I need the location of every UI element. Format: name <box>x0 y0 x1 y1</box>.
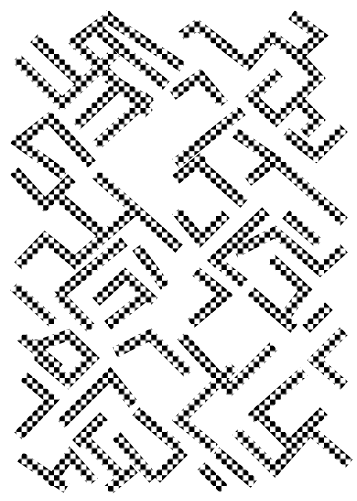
ornament-artwork <box>0 0 357 501</box>
pixel-bands <box>0 0 357 501</box>
